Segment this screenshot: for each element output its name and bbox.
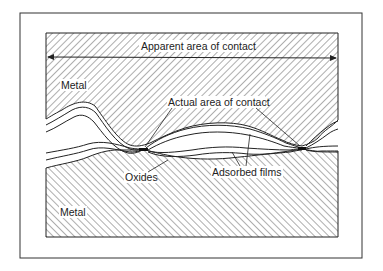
oxide-film-pocket-bottom (148, 147, 302, 153)
bottom-metal-region (46, 149, 338, 237)
oxides-label: Oxides (125, 171, 158, 183)
metal-top-label: Metal (61, 79, 87, 91)
contact-junction-right (298, 147, 306, 150)
actual-area-label: Actual area of contact (168, 96, 270, 108)
diagram-canvas: Apparent area of contact Metal Actual ar… (0, 0, 383, 271)
film-right-bottom-2 (306, 146, 338, 149)
contact-junction-left (139, 148, 148, 151)
apparent-area-label: Apparent area of contact (141, 40, 256, 52)
adsorbed-films-label: Adsorbed films (212, 166, 281, 178)
metal-bottom-label: Metal (60, 206, 86, 218)
contact-diagram: Apparent area of contact Metal Actual ar… (0, 0, 383, 271)
